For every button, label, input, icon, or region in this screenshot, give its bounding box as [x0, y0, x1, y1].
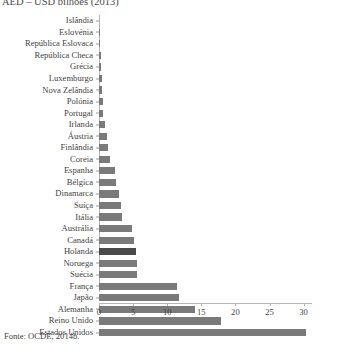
source-note: Fonte: OCDE, 2014b.: [4, 331, 79, 341]
category-label: Japão: [0, 293, 96, 302]
y-axis-tick: [96, 170, 99, 171]
bar-cell: [96, 211, 355, 223]
y-axis-tick: [96, 251, 99, 252]
bar-row: Áustria: [0, 130, 355, 142]
bar: [99, 271, 137, 278]
bar-row: Suécia: [0, 269, 355, 281]
bar-chart-plot-area: IslândiaEslovéniaRepública EslovacaRepúb…: [0, 15, 355, 305]
x-axis-tick: [235, 303, 236, 306]
bar-row: Japão: [0, 292, 355, 304]
bar: [99, 133, 107, 140]
x-axis-tick-label: 15: [197, 307, 206, 317]
x-axis-tick-label: 25: [265, 307, 274, 317]
bar-cell: [96, 27, 355, 39]
x-axis-line: [99, 303, 312, 304]
bar: [99, 167, 115, 174]
bar-row: Bélgica: [0, 177, 355, 189]
category-label: Suécia: [0, 270, 96, 279]
bar-row: Finlândia: [0, 142, 355, 154]
bar-row: Eslovénia: [0, 27, 355, 39]
y-axis-tick: [96, 297, 99, 298]
bar: [99, 237, 134, 244]
category-label: Nova Zelândia: [0, 86, 96, 95]
bar-row: Nova Zelândia: [0, 84, 355, 96]
bar: [99, 144, 108, 151]
bar-row: Grécia: [0, 61, 355, 73]
x-axis-tick-label: 10: [163, 307, 172, 317]
y-axis-tick: [96, 66, 99, 67]
bar: [99, 283, 177, 290]
x-axis-tick: [270, 303, 271, 306]
bar-cell: [96, 15, 355, 27]
bar: [99, 86, 102, 93]
bar-cell: [96, 177, 355, 189]
bar-row: Luxemburgo: [0, 73, 355, 85]
x-axis-tick: [99, 303, 100, 306]
y-axis-tick: [96, 32, 99, 33]
category-label: Polónia: [0, 97, 96, 106]
bar-row: Coreia: [0, 154, 355, 166]
bar: [99, 294, 179, 301]
bar-cell: [96, 292, 355, 304]
bar: [99, 329, 306, 336]
category-label: Holanda: [0, 247, 96, 256]
category-label: Grécia: [0, 62, 96, 71]
bar-cell: [96, 234, 355, 246]
category-label: Espanha: [0, 166, 96, 175]
bar-cell: [96, 107, 355, 119]
x-axis-tick-label: 30: [299, 307, 308, 317]
y-axis-tick: [96, 263, 99, 264]
y-axis-tick: [96, 217, 99, 218]
x-axis-tick-label: 0: [97, 307, 101, 317]
bar: [99, 110, 103, 117]
category-label: Noruega: [0, 259, 96, 268]
y-axis-tick: [96, 136, 99, 137]
bar: [99, 225, 132, 232]
x-axis-tick: [201, 303, 202, 306]
bar-cell: [96, 96, 355, 108]
x-axis: 051015202530: [0, 303, 355, 327]
y-axis-tick: [96, 147, 99, 148]
bar: [99, 75, 102, 82]
bar-row: França: [0, 281, 355, 293]
bar-cell: [96, 246, 355, 258]
bar-cell: [96, 119, 355, 131]
y-axis-tick: [96, 90, 99, 91]
bar-cell: [96, 130, 355, 142]
bar-cell: [96, 154, 355, 166]
bar: [99, 202, 121, 209]
bar-row: Itália: [0, 211, 355, 223]
y-axis-tick: [96, 124, 99, 125]
bar-row: Polónia: [0, 96, 355, 108]
y-axis-tick: [96, 205, 99, 206]
bar-row: Irlanda: [0, 119, 355, 131]
y-axis-tick: [96, 43, 99, 44]
category-label: Eslovénia: [0, 28, 96, 37]
category-label: Luxemburgo: [0, 74, 96, 83]
x-axis-tick-label: 20: [231, 307, 240, 317]
y-axis-tick: [96, 182, 99, 183]
category-label: Austrália: [0, 224, 96, 233]
x-axis-tick: [167, 303, 168, 306]
bar-row: Espanha: [0, 165, 355, 177]
y-axis-tick: [96, 101, 99, 102]
bar-cell: [96, 50, 355, 62]
y-axis-tick: [96, 332, 99, 333]
chart-title: AED – USD bilhões (2013): [2, 0, 119, 7]
x-axis-tick: [133, 303, 134, 306]
bar-cell: [96, 38, 355, 50]
category-label: Portugal: [0, 109, 96, 118]
bar-cell: [96, 142, 355, 154]
bar-cell: [96, 165, 355, 177]
x-axis-tick: [304, 303, 305, 306]
y-axis-tick: [96, 240, 99, 241]
bar-cell: [96, 61, 355, 73]
bar-cell: [96, 200, 355, 212]
bar: [99, 179, 116, 186]
bar-cell: [96, 269, 355, 281]
bar-cell: [96, 257, 355, 269]
bar-cell: [96, 73, 355, 85]
category-label: França: [0, 282, 96, 291]
category-label: República Eslovaca: [0, 39, 96, 48]
bar-row: Islândia: [0, 15, 355, 27]
